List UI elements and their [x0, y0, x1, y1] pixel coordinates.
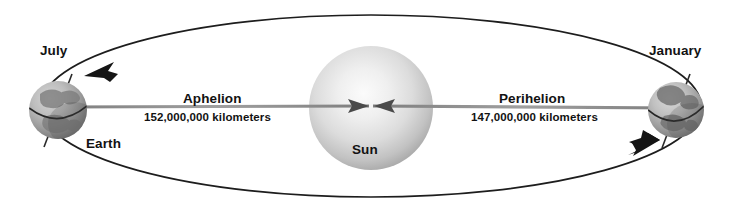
aphelion-axis-line	[62, 106, 369, 107]
perihelion-axis-line	[373, 106, 674, 108]
label-aphelion: Aphelion	[183, 92, 242, 106]
label-earth: Earth	[86, 137, 121, 151]
label-sun: Sun	[352, 143, 378, 157]
orbit-diagram: July January Earth Sun Aphelion 152,000,…	[0, 0, 738, 210]
label-perihelion: Perihelion	[499, 92, 565, 106]
label-aphelion-distance: 152,000,000 kilometers	[144, 112, 271, 124]
orbit-direction-arrow-july	[84, 62, 118, 82]
label-january: January	[649, 44, 701, 58]
earth-january-shadow	[667, 103, 717, 145]
label-july: July	[40, 44, 67, 58]
label-perihelion-distance: 147,000,000 kilometers	[471, 112, 598, 124]
earth-january-group	[648, 74, 717, 148]
orbit-diagram-canvas	[0, 0, 738, 210]
